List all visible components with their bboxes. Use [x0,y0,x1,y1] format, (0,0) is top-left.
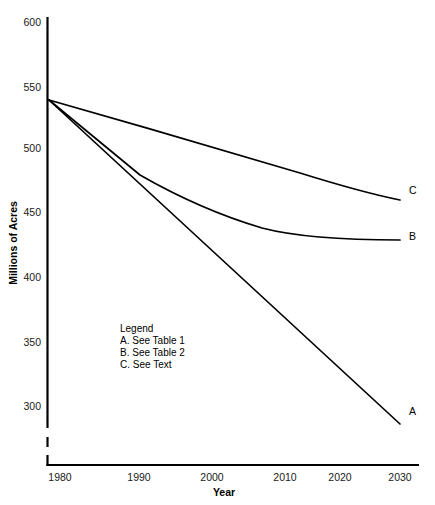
legend-entry-a: A. See Table 1 [120,335,185,346]
x-tick-label-1990: 1990 [127,471,151,483]
series-end-label-c: C [409,184,417,196]
chart-svg: 600 550 500 450 400 350 300 Millions of … [0,0,435,505]
x-tick-label-1980: 1980 [48,471,72,483]
y-tick-label-550: 550 [23,81,41,93]
y-tick-label-400: 400 [23,271,41,283]
x-tick-label-2010: 2010 [273,471,297,483]
y-tick-label-350: 350 [23,336,41,348]
legend-entry-b: B. See Table 2 [120,347,185,358]
x-tick-label-2000: 2000 [200,471,224,483]
x-tick-label-2020: 2020 [328,471,352,483]
y-tick-label-500: 500 [23,142,41,154]
y-tick-label-600: 600 [23,16,41,28]
x-axis-title: Year [213,486,235,498]
y-tick-label-300: 300 [23,400,41,412]
y-axis-title: Millions of Acres [7,201,19,285]
y-tick-label-450: 450 [23,206,41,218]
x-tick-label-2030: 2030 [388,471,412,483]
series-end-label-b: B [409,230,416,242]
chart-figure: 600 550 500 450 400 350 300 Millions of … [0,0,435,505]
chart-background [0,0,435,505]
legend-title: Legend [120,323,153,334]
legend-entry-c: C. See Text [120,359,172,370]
series-end-label-a: A [409,405,416,417]
